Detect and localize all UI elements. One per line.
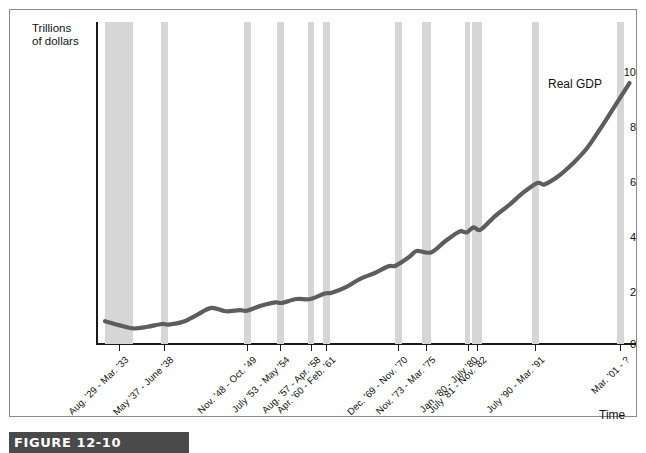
- figure-caption-text: FIGURE 12-10: [14, 435, 121, 450]
- x-tick-mark: [311, 345, 312, 351]
- x-tick-mark: [164, 345, 165, 351]
- plot-area: [96, 22, 636, 344]
- recession-band: [617, 22, 624, 344]
- y-axis-title: Trillions of dollars: [32, 22, 79, 48]
- recession-band: [472, 22, 482, 344]
- recession-band: [422, 22, 431, 344]
- x-tick-mark: [398, 345, 399, 351]
- recession-band: [465, 22, 470, 344]
- recession-band: [161, 22, 168, 344]
- x-tick-mark: [426, 345, 427, 351]
- recession-band: [395, 22, 402, 344]
- series-label-real-gdp: Real GDP: [548, 77, 602, 91]
- chart-frame: Trillions of dollars 10 8 6 4 2 0: [9, 9, 637, 417]
- recession-band: [308, 22, 314, 344]
- x-tick-label: July '90 - Mar. '91: [484, 354, 547, 415]
- x-tick-mark: [468, 345, 469, 351]
- x-tick-mark: [326, 345, 327, 351]
- x-tick-mark: [477, 345, 478, 351]
- recession-band: [277, 22, 284, 344]
- x-tick-mark: [280, 345, 281, 351]
- y-axis-title-line2: of dollars: [32, 35, 79, 48]
- recession-band: [244, 22, 251, 344]
- recession-band: [105, 22, 133, 344]
- x-tick-mark: [119, 345, 120, 351]
- x-tick-mark: [535, 345, 536, 351]
- x-tick-mark: [247, 345, 248, 351]
- x-tick-label: Nov. '48 - Oct. '49: [195, 354, 258, 416]
- chart-svg: [96, 22, 636, 344]
- x-tick-label: Mar. '01 - ?: [589, 354, 632, 396]
- x-axis-title: Time: [599, 408, 625, 422]
- x-tick-mark: [620, 345, 621, 351]
- y-axis-title-line1: Trillions: [32, 22, 79, 35]
- real-gdp-line: [105, 83, 629, 328]
